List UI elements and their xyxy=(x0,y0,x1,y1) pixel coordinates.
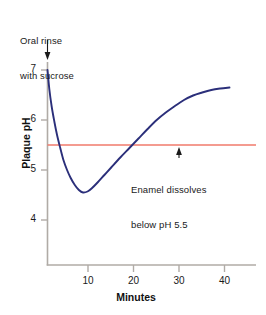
x-tick-label-40: 40 xyxy=(214,275,236,286)
annotation-enamel-dissolves: Enamel dissolves below pH 5.5 xyxy=(131,161,207,253)
y-axis-title: Plaque pH xyxy=(20,108,32,178)
enamel-dissolves-arrow xyxy=(176,147,182,158)
x-tick-label-10: 10 xyxy=(77,275,99,286)
x-tick-label-30: 30 xyxy=(168,275,190,286)
y-tick-label-4: 4 xyxy=(22,213,36,224)
annotation-oral-rinse-line1: Oral rinse xyxy=(20,35,74,47)
x-tick-label-20: 20 xyxy=(123,275,145,286)
annotation-oral-rinse: Oral rinse with sucrose xyxy=(20,12,74,104)
x-axis-title: Minutes xyxy=(96,291,176,303)
annotation-enamel-line2: below pH 5.5 xyxy=(131,219,207,231)
annotation-enamel-line1: Enamel dissolves xyxy=(131,184,207,196)
stephan-curve-chart: 7 6 5 4 10 20 30 40 Plaque pH Minutes Or… xyxy=(0,0,266,315)
annotation-oral-rinse-line2: with sucrose xyxy=(20,70,74,82)
